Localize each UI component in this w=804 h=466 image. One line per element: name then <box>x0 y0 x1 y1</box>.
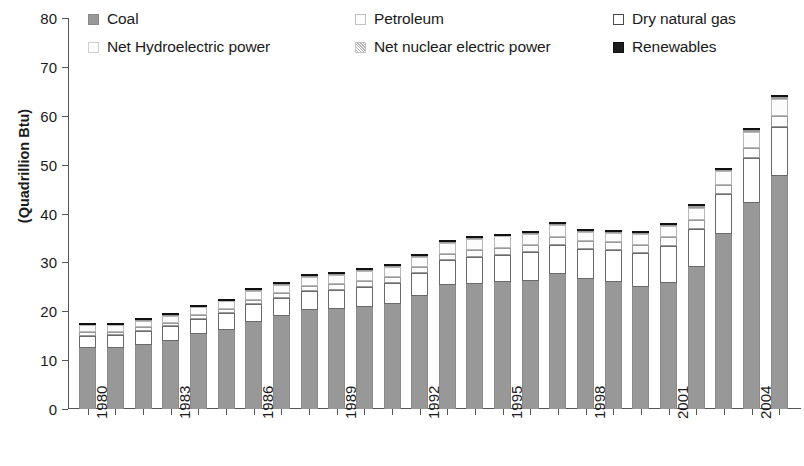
bar-segment-renew <box>771 95 788 97</box>
bar-segment-petroleum <box>660 237 677 245</box>
bar[interactable] <box>162 315 179 409</box>
bar-segment-coal <box>522 281 539 409</box>
bar-segment-hydro <box>301 277 318 286</box>
bar[interactable] <box>715 170 732 409</box>
bar-segment-hydro <box>660 226 677 238</box>
bar-segment-renew <box>688 204 705 206</box>
bar[interactable] <box>190 306 207 409</box>
bar-segment-petroleum <box>411 267 428 273</box>
bar-segment-hydro <box>549 225 566 237</box>
bar-segment-hydro <box>439 243 456 253</box>
bar-segment-coal <box>328 309 345 409</box>
energy-consumption-stacked-bar-chart: CoalPetroleumDry natural gasNet Hydroele… <box>0 0 804 466</box>
bar-segment-petroleum <box>301 286 318 291</box>
bar-segment-petroleum <box>494 248 511 255</box>
bar-segment-coal <box>577 279 594 409</box>
bar[interactable] <box>245 290 262 409</box>
bar-segment-petroleum <box>218 309 235 313</box>
y-axis-tick <box>62 67 68 68</box>
bar-segment-hydro <box>328 275 345 284</box>
x-axis-tick <box>586 409 587 415</box>
bar[interactable] <box>660 224 677 409</box>
bar-segment-petroleum <box>245 300 262 304</box>
bar-segment-renew <box>466 236 483 238</box>
bar-segment-natgas <box>162 326 179 340</box>
x-axis-tick <box>254 409 255 415</box>
bar[interactable] <box>384 266 401 409</box>
bar[interactable] <box>439 242 456 409</box>
bar-segment-hydro <box>356 271 373 281</box>
x-axis-tick <box>641 409 642 415</box>
bar-segment-hydro <box>411 257 428 267</box>
bar-segment-hydro <box>273 285 290 293</box>
bar-segment-petroleum <box>743 148 760 158</box>
bar[interactable] <box>107 324 124 409</box>
bar[interactable] <box>328 274 345 409</box>
bar-segment-renew <box>356 268 373 270</box>
y-axis-tick <box>62 409 68 410</box>
bar-segment-petroleum <box>715 185 732 194</box>
x-axis-tick <box>337 409 338 415</box>
x-axis-tick <box>392 409 393 415</box>
bar-segment-coal <box>356 307 373 409</box>
bar-segment-petroleum <box>522 245 539 252</box>
bar[interactable] <box>771 96 788 409</box>
x-axis-tick <box>696 409 697 415</box>
bar-segment-renew <box>411 254 428 256</box>
bar[interactable] <box>688 206 705 409</box>
bar-segment-renew <box>384 264 401 266</box>
bar[interactable] <box>79 324 96 409</box>
x-axis-tick <box>115 409 116 415</box>
bar-segment-petroleum <box>356 281 373 287</box>
bar-segment-petroleum <box>466 250 483 257</box>
bar[interactable] <box>135 320 152 409</box>
bar[interactable] <box>743 129 760 409</box>
x-axis-tick <box>226 409 227 415</box>
bar-segment-coal <box>439 285 456 409</box>
y-axis-tick-label: 50 <box>17 157 57 172</box>
bar-segment-coal <box>660 283 677 409</box>
bar[interactable] <box>218 301 235 410</box>
bar-segment-coal <box>549 274 566 409</box>
bar-segment-petroleum <box>162 323 179 326</box>
bar[interactable] <box>494 235 511 409</box>
y-axis-line <box>68 18 69 409</box>
bar[interactable] <box>466 238 483 409</box>
y-axis-tick-label: 10 <box>17 353 57 368</box>
bar[interactable] <box>549 224 566 409</box>
x-axis-tick <box>281 409 282 415</box>
bar[interactable] <box>273 283 290 409</box>
bar-segment-natgas <box>439 260 456 285</box>
x-axis-tick <box>364 409 365 415</box>
x-axis-tick <box>669 409 670 415</box>
x-axis-tick <box>558 409 559 415</box>
y-axis-tick-label: 20 <box>17 304 57 319</box>
y-axis-tick <box>62 18 68 19</box>
bar-segment-petroleum <box>771 116 788 126</box>
bar[interactable] <box>632 233 649 409</box>
bar-segment-coal <box>688 267 705 409</box>
bar[interactable] <box>577 230 594 409</box>
bar-segment-renew <box>549 222 566 224</box>
bar-segment-nuclear <box>771 97 788 99</box>
bar[interactable] <box>301 276 318 409</box>
bar-segment-petroleum <box>79 332 96 336</box>
bar[interactable] <box>411 255 428 409</box>
bar-segment-hydro <box>771 99 788 116</box>
bar[interactable] <box>605 231 622 409</box>
bar-segment-renew <box>162 313 179 315</box>
bar[interactable] <box>522 232 539 409</box>
bar-segment-natgas <box>494 255 511 283</box>
bar-segment-coal <box>494 282 511 409</box>
bar-segment-coal <box>301 310 318 409</box>
x-axis-tick <box>447 409 448 415</box>
bar-segment-hydro <box>79 325 96 331</box>
bar-segment-renew <box>577 229 594 231</box>
bar[interactable] <box>356 270 373 409</box>
y-axis-tick <box>62 214 68 215</box>
y-axis-tick-label: 80 <box>17 11 57 26</box>
bar-segment-natgas <box>549 245 566 274</box>
bar-segment-coal <box>135 345 152 410</box>
y-axis-tick <box>62 262 68 263</box>
bar-segment-natgas <box>688 229 705 267</box>
